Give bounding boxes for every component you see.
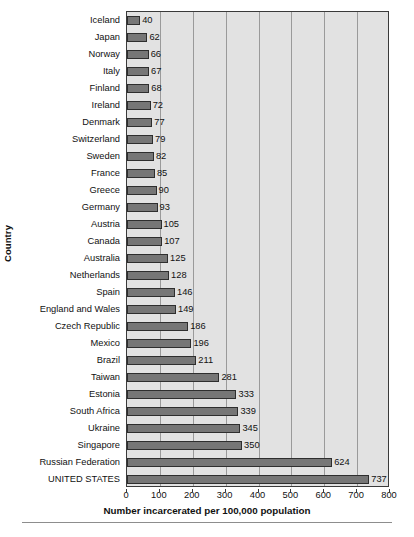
gridline [291,12,292,486]
category-label: Norway [88,48,120,60]
category-label: Finland [90,82,121,94]
x-tick-label: 0 [123,489,128,502]
bar-value-label: 67 [151,66,161,77]
bar-value-label: 350 [244,440,260,451]
bar-value-label: 128 [171,270,187,281]
y-axis-title: Country [0,0,16,487]
x-tick-label: 500 [283,489,299,502]
category-label: Netherlands [70,269,120,281]
bar [127,169,155,178]
bar [127,152,154,161]
x-tick-label: 800 [381,489,397,502]
category-label: Ukraine [88,422,120,434]
category-label: Italy [103,65,120,77]
bar [127,16,140,25]
bar [127,84,149,93]
bar-value-label: 72 [153,100,163,111]
category-axis-labels: IcelandJapanNorwayItalyFinlandIrelandDen… [16,11,123,487]
bar [127,407,238,416]
bar-value-label: 196 [193,338,209,349]
bar [127,322,188,331]
category-label: Sweden [86,150,120,162]
category-label: Russian Federation [39,456,120,468]
bar-value-label: 339 [240,406,256,417]
bar-value-label: 90 [159,185,169,196]
category-label: Germany [82,201,120,213]
bar [127,220,162,229]
category-label: France [91,167,120,179]
bar [127,373,219,382]
x-tick-label: 200 [184,489,200,502]
category-label: Iceland [90,14,120,26]
incarceration-bar-chart: Country IcelandJapanNorwayItalyFinlandIr… [0,0,414,537]
bar [127,441,242,450]
bar [127,458,332,467]
bar [127,186,157,195]
category-label: Ireland [92,99,120,111]
x-axis-title: Number incarcerated per 100,000 populati… [0,505,414,516]
bar [127,288,175,297]
bar [127,135,153,144]
category-label: Mexico [91,337,120,349]
bar [127,475,369,484]
bar-value-label: 68 [151,83,161,94]
bar [127,254,168,263]
category-label: Singapore [78,439,120,451]
bar [127,203,158,212]
category-label: Taiwan [91,371,120,383]
bar-value-label: 93 [160,202,170,213]
bar-value-label: 105 [164,219,180,230]
category-label: Australia [84,252,120,264]
category-label: Japan [95,31,120,43]
x-tick-label: 400 [250,489,266,502]
bar-value-label: 77 [154,117,164,128]
bar-value-label: 345 [242,423,258,434]
gridline [324,12,325,486]
category-label: Greece [90,184,121,196]
bar [127,356,196,365]
bar [127,339,191,348]
plot-area: 4062666768727779828590931051071251281461… [126,11,389,487]
bar-value-label: 333 [238,389,254,400]
bar-value-label: 737 [371,474,387,485]
bottom-divider [22,522,392,523]
bar [127,390,236,399]
x-axis-tick-labels: 0100200300400500600700800 [126,489,389,503]
bar [127,50,149,59]
bar-value-label: 82 [156,151,166,162]
bar [127,305,176,314]
category-label: Austria [91,218,120,230]
bar [127,237,162,246]
bar [127,33,147,42]
y-axis-title-text: Country [3,225,14,262]
category-label: Canada [87,235,120,247]
category-label: Brazil [97,354,120,366]
category-label: Estonia [89,388,120,400]
bar-value-label: 186 [190,321,206,332]
category-label: Spain [96,286,120,298]
bar-value-label: 79 [155,134,165,145]
x-tick-label: 300 [217,489,233,502]
bar-value-label: 85 [157,168,167,179]
category-label: UNITED STATES [48,473,120,485]
bar [127,271,169,280]
category-label: Czech Republic [55,320,120,332]
bar-value-label: 211 [198,355,213,366]
bar [127,67,149,76]
x-tick-label: 700 [348,489,364,502]
category-label: South Africa [70,405,120,417]
bar-value-label: 624 [334,457,350,468]
x-tick-label: 100 [151,489,167,502]
category-label: Switzerland [72,133,120,145]
category-label: Denmark [82,116,120,128]
bar-value-label: 40 [142,15,152,26]
bar-value-label: 66 [151,49,161,60]
bar-value-label: 146 [177,287,193,298]
bar-value-label: 62 [149,32,159,43]
gridline [357,12,358,486]
bar-value-label: 281 [221,372,237,383]
bar [127,101,151,110]
bar-value-label: 125 [170,253,186,264]
category-label: England and Wales [40,303,120,315]
bar-value-label: 149 [178,304,194,315]
